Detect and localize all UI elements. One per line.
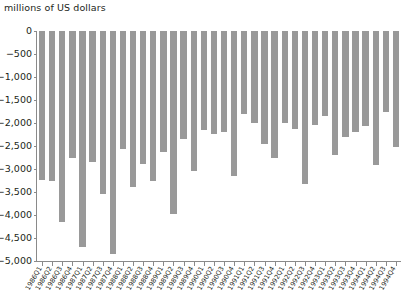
y-tick-label: −500 xyxy=(6,48,32,59)
y-tick-label: −5,000 xyxy=(0,255,32,266)
bar xyxy=(231,31,237,176)
x-tick-labels: 1986Q11986Q21986Q31986Q41987Q11987Q21987… xyxy=(24,265,398,292)
bar xyxy=(342,31,348,137)
bar xyxy=(140,31,146,164)
y-tick-label: −3,500 xyxy=(0,186,32,197)
bar-chart: millions of US dollars 0−500−1,000−1,500… xyxy=(0,0,406,302)
bar xyxy=(211,31,217,134)
y-axis-group: 0−500−1,000−1,500−2,000−2,500−3,000−3,50… xyxy=(0,25,37,266)
x-axis-group: 1986Q11986Q21986Q31986Q41987Q11987Q21987… xyxy=(24,262,401,292)
y-tick-label: −2,000 xyxy=(0,117,32,128)
y-tick-label: −2,500 xyxy=(0,140,32,151)
bar xyxy=(352,31,358,132)
bar xyxy=(110,31,116,254)
bar xyxy=(69,31,75,158)
plot-svg: 0−500−1,000−1,500−2,000−2,500−3,000−3,50… xyxy=(0,0,406,302)
bar xyxy=(241,31,247,114)
y-tick-label: −3,000 xyxy=(0,163,32,174)
bar xyxy=(170,31,176,214)
bar xyxy=(191,31,197,171)
bar xyxy=(120,31,126,149)
bar xyxy=(282,31,288,123)
bar xyxy=(332,31,338,155)
bar xyxy=(100,31,106,194)
bar xyxy=(362,31,368,126)
bar xyxy=(130,31,136,187)
bar xyxy=(39,31,45,180)
x-tick-marks xyxy=(43,262,397,266)
bar xyxy=(89,31,95,162)
bar xyxy=(271,31,277,158)
bar xyxy=(160,31,166,152)
bar xyxy=(150,31,156,181)
bar xyxy=(180,31,186,139)
bar xyxy=(201,31,207,130)
y-tick-label: −4,500 xyxy=(0,232,32,243)
y-tick-label: −1,500 xyxy=(0,94,32,105)
bar xyxy=(221,31,227,132)
bar xyxy=(393,31,399,147)
bars-group xyxy=(39,31,399,254)
y-tick-label: −1,000 xyxy=(0,71,32,82)
bar xyxy=(302,31,308,184)
bar xyxy=(292,31,298,129)
bar xyxy=(251,31,257,123)
y-tick-labels: 0−500−1,000−1,500−2,000−2,500−3,000−3,50… xyxy=(0,25,32,266)
plot-area: 0−500−1,000−1,500−2,000−2,500−3,000−3,50… xyxy=(0,0,406,302)
bar xyxy=(79,31,85,247)
bar xyxy=(49,31,55,181)
bar xyxy=(59,31,65,222)
bar xyxy=(261,31,267,144)
bar xyxy=(383,31,389,112)
bar xyxy=(312,31,318,125)
y-tick-label: −4,000 xyxy=(0,209,32,220)
bar xyxy=(322,31,328,116)
y-tick-label: 0 xyxy=(26,25,32,36)
bar xyxy=(373,31,379,165)
